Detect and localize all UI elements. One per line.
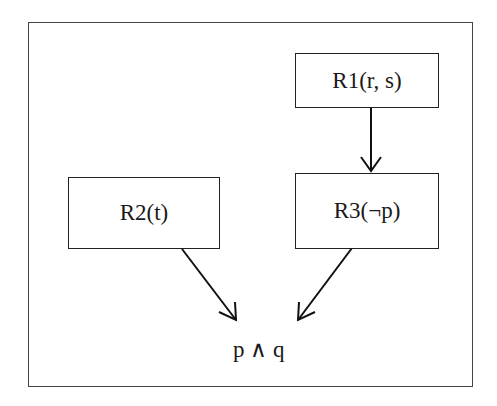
- node-r1-label: R1(r, s): [332, 68, 401, 94]
- edge-r3-target: [298, 248, 352, 320]
- node-r2-label: R2(t): [120, 200, 169, 226]
- node-r3: R3(¬p): [295, 173, 439, 249]
- edge-r2-target: [182, 249, 236, 320]
- node-r1: R1(r, s): [295, 53, 439, 108]
- target-formula: p ∧ q: [233, 336, 285, 363]
- node-r3-label: R3(¬p): [334, 198, 401, 224]
- node-r2: R2(t): [68, 177, 220, 249]
